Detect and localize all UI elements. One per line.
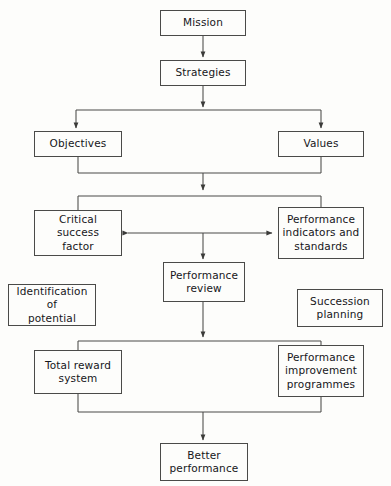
flowchart-diagram: Mission Strategies Objectives Values Cri… [0,0,391,486]
node-performance-improvement-programmes[interactable]: Performance improvement programmes [278,345,364,397]
node-mission[interactable]: Mission [160,10,246,36]
node-identification-of-potential[interactable]: Identification of potential [8,284,96,326]
node-succession-planning[interactable]: Succession planning [297,289,383,327]
node-better-performance[interactable]: Better performance [160,443,248,481]
node-objectives[interactable]: Objectives [34,131,122,157]
node-performance-indicators-and-standards[interactable]: Performance indicators and standards [278,207,364,259]
node-total-reward-system[interactable]: Total reward system [34,350,122,394]
node-values[interactable]: Values [278,131,364,157]
node-critical-success-factor[interactable]: Critical success factor [34,210,122,256]
node-performance-review[interactable]: Performance review [163,262,245,302]
node-strategies[interactable]: Strategies [160,60,246,86]
